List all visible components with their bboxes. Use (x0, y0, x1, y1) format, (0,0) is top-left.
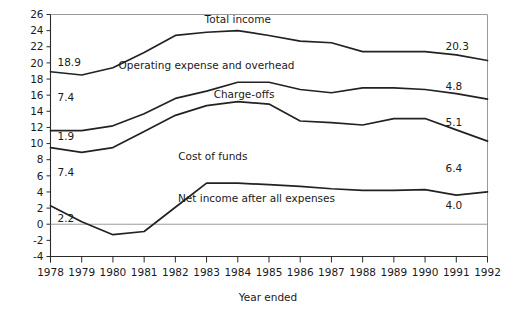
series-label: Operating expense and overhead (119, 59, 295, 71)
y-tick-label: 24 (30, 24, 44, 36)
x-tick-label: 1988 (349, 266, 376, 278)
y-tick-label: 4 (37, 186, 44, 198)
y-tick-label: 10 (30, 137, 43, 149)
left-value-label: 7.4 (58, 91, 75, 103)
right-value-label: 20.3 (446, 40, 469, 52)
right-value-label: 4.0 (446, 199, 463, 211)
x-tick-label: 1985 (256, 266, 283, 278)
x-tick-label: 1989 (380, 266, 407, 278)
series-label: Net income after all expenses (178, 192, 335, 204)
x-tick-label: 1992 (474, 266, 501, 278)
x-tick-label: 1982 (162, 266, 189, 278)
y-tick-label: 26 (30, 8, 44, 20)
x-tick-label: 1978 (37, 266, 64, 278)
x-tick-label: 1979 (68, 266, 95, 278)
left-value-label: 1.9 (58, 130, 75, 142)
x-tick-label: 1990 (412, 266, 439, 278)
x-axis-title: Year ended (238, 291, 297, 303)
x-tick-label: 1984 (224, 266, 251, 278)
x-tick-label: 1991 (443, 266, 470, 278)
chart-root: -4-202468101214161820222426 197819791980… (0, 0, 516, 312)
left-value-label: 2.2 (58, 212, 75, 224)
x-tick-label: 1983 (193, 266, 220, 278)
y-tick-label: -2 (33, 234, 43, 246)
y-tick-label: 14 (30, 105, 44, 117)
x-tick-label: 1987 (318, 266, 345, 278)
x-tick-label: 1980 (100, 266, 127, 278)
y-tick-label: 20 (30, 57, 43, 69)
right-value-label: 5.1 (446, 116, 463, 128)
y-tick-label: -4 (33, 250, 44, 262)
y-tick-label: 0 (37, 218, 44, 230)
y-tick-label: 12 (30, 121, 43, 133)
left-value-label: 18.9 (58, 56, 81, 68)
y-tick-label: 22 (30, 40, 43, 52)
y-tick-label: 16 (30, 89, 44, 101)
y-tick-label: 2 (37, 202, 44, 214)
right-value-label: 4.8 (446, 80, 463, 92)
series-label: Charge-offs (214, 88, 275, 100)
left-value-label: 7.4 (58, 166, 75, 178)
series-label: Total income (204, 13, 271, 25)
series-label: Cost of funds (178, 150, 247, 162)
y-tick-label: 6 (37, 170, 44, 182)
y-tick-label: 18 (30, 73, 43, 85)
line-chart: -4-202468101214161820222426 197819791980… (0, 0, 516, 312)
right-value-label: 6.4 (446, 162, 463, 174)
y-tick-label: 8 (37, 153, 44, 165)
x-tick-label: 1981 (131, 266, 158, 278)
x-tick-label: 1986 (287, 266, 314, 278)
